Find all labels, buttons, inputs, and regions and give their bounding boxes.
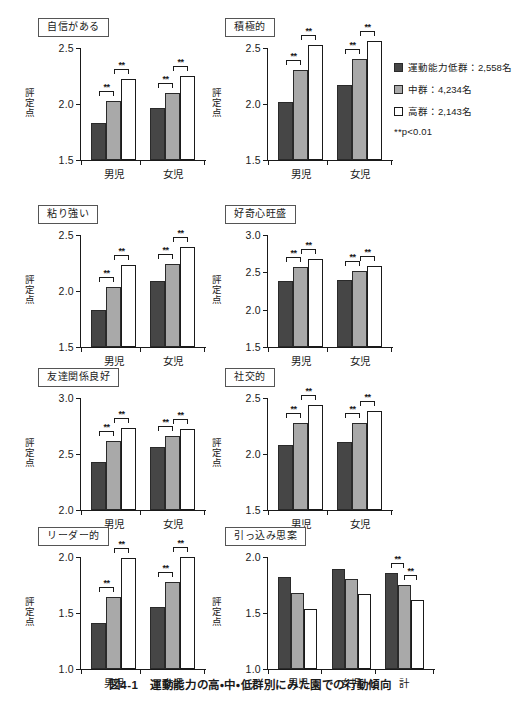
y-axis: [80, 235, 81, 348]
y-tick: [76, 347, 80, 348]
panel-friendship-title: 友達関係良好: [38, 368, 119, 387]
significance-bracket: **: [114, 542, 129, 554]
x-axis: [80, 347, 206, 348]
x-group-label: 女児: [335, 516, 385, 531]
legend-swatch-high-icon: [394, 107, 403, 116]
y-axis: [267, 398, 268, 511]
bar-high: [411, 600, 424, 669]
significance-bracket: **: [286, 251, 301, 263]
y-tick-label: 1.0: [225, 663, 261, 675]
x-tick: [140, 348, 141, 352]
bar-mid: [165, 436, 180, 510]
bracket-line: [99, 91, 114, 96]
y-tick: [263, 160, 267, 161]
bar-mid: [398, 585, 411, 669]
significance-bracket: **: [360, 395, 375, 407]
bracket-line: [173, 237, 188, 242]
bar-low: [332, 569, 345, 669]
x-tick: [327, 348, 328, 352]
bar-mid: [106, 287, 121, 347]
panel-leader-title: リーダー的: [38, 527, 109, 546]
y-tick-label: 2.0: [38, 98, 74, 110]
y-tick: [76, 160, 80, 161]
y-tick-label: 1.5: [38, 154, 74, 166]
bracket-line: [158, 254, 173, 259]
bar-high: [121, 265, 136, 347]
bar-high: [358, 594, 371, 669]
x-group-label: 男児: [89, 353, 139, 368]
bracket-line: [360, 401, 375, 406]
y-tick-label: 2.0: [38, 504, 74, 516]
x-axis: [80, 669, 206, 670]
bracket-line: [158, 572, 173, 577]
bar-mid: [106, 101, 121, 160]
y-tick-label: 3.0: [225, 229, 261, 241]
y-tick: [263, 510, 267, 511]
y-tick: [76, 613, 80, 614]
y-axis-label: 評定点: [24, 597, 35, 627]
legend-label: 中群：4,234名: [408, 82, 472, 96]
y-tick-label: 1.5: [225, 154, 261, 166]
x-group-label: 男児: [89, 166, 139, 181]
y-tick-label: 1.0: [38, 663, 74, 675]
bar-low: [150, 108, 165, 160]
x-tick: [375, 670, 376, 674]
bar-low: [337, 85, 352, 160]
y-tick-label: 2.0: [225, 551, 261, 563]
bracket-line: [345, 413, 360, 418]
x-tick: [391, 348, 392, 352]
significance-bracket: **: [286, 54, 301, 66]
x-tick: [204, 511, 205, 515]
significance-bracket: **: [404, 569, 417, 581]
bracket-line: [301, 35, 316, 40]
bracket-line: [173, 419, 188, 424]
bar-mid: [165, 582, 180, 669]
bracket-line: [99, 431, 114, 436]
y-tick-label: 1.5: [38, 607, 74, 619]
bar-high: [367, 411, 382, 510]
bar-high: [121, 428, 136, 510]
significance-bracket: **: [114, 249, 129, 261]
y-axis-label: 評定点: [24, 438, 35, 468]
significance-bracket: **: [301, 243, 316, 255]
bracket-line: [173, 547, 188, 552]
bar-low: [150, 281, 165, 347]
bar-low: [278, 281, 293, 347]
significance-bracket: **: [158, 248, 173, 260]
bar-low: [337, 442, 352, 510]
x-tick: [268, 511, 269, 515]
bracket-line: [301, 395, 316, 400]
bar-low: [150, 447, 165, 510]
significance-bracket: **: [173, 231, 188, 243]
y-tick: [263, 557, 267, 558]
x-tick: [204, 670, 205, 674]
y-axis-label: 評定点: [211, 88, 222, 118]
y-tick-label: 2.5: [225, 42, 261, 54]
y-axis: [267, 557, 268, 670]
bar-mid: [106, 441, 121, 510]
x-axis: [267, 669, 435, 670]
bracket-line: [99, 277, 114, 282]
x-tick: [204, 348, 205, 352]
legend-rows: 運動能力低群：2,558名中群：4,234名高群：2,143名: [394, 60, 500, 118]
bracket-line: [286, 413, 301, 418]
bracket-line: [173, 66, 188, 71]
y-tick: [263, 272, 267, 273]
bracket-line: [114, 69, 129, 74]
bracket-line: [360, 256, 375, 261]
significance-bracket: **: [158, 77, 173, 89]
bracket-line: [158, 426, 173, 431]
bar-high: [121, 558, 136, 669]
bar-high: [308, 405, 323, 510]
x-group-label: 女児: [148, 166, 198, 181]
bar-mid: [352, 271, 367, 347]
panel-confidence-title: 自信がある: [38, 18, 109, 37]
y-tick: [263, 235, 267, 236]
bar-mid: [293, 423, 308, 510]
y-axis-label: 評定点: [24, 88, 35, 118]
bar-high: [180, 247, 195, 347]
x-group-label: 男児: [276, 353, 326, 368]
y-tick: [76, 48, 80, 49]
y-tick-label: 1.5: [225, 607, 261, 619]
bar-mid: [165, 93, 180, 160]
